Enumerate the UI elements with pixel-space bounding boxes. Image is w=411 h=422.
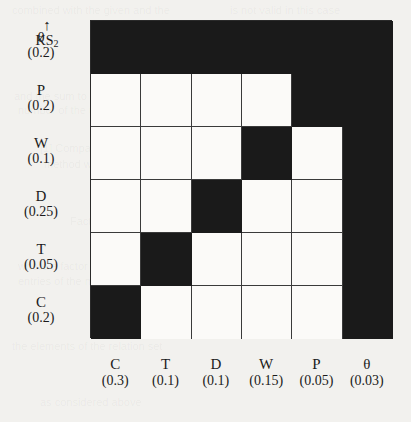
- figure-page: combined with the given and theis not va…: [0, 0, 411, 422]
- row-label-θ: θ(0.2): [0, 29, 82, 61]
- matrix-cell-θ-θ: [343, 21, 393, 74]
- row-label-symbol: T: [0, 241, 82, 258]
- matrix-cell-T-C: [91, 233, 141, 286]
- matrix-cell-T-T: [141, 233, 191, 286]
- matrix-cell-P-D: [192, 74, 242, 127]
- matrix-cell-D-P: [292, 180, 342, 233]
- row-label-symbol: W: [0, 135, 82, 152]
- matrix-cell-W-P: [292, 127, 342, 180]
- matrix-cell-W-T: [141, 127, 191, 180]
- ghost-text: is not valid in this case: [230, 4, 340, 16]
- matrix-cell-θ-C: [91, 21, 141, 74]
- matrix-cell-C-D: [192, 286, 242, 339]
- row-label-value: (0.2): [0, 45, 82, 61]
- matrix-cell-θ-T: [141, 21, 191, 74]
- row-label-C: C(0.2): [0, 294, 82, 326]
- matrix-cell-D-C: [91, 180, 141, 233]
- matrix-cell-D-D: [192, 180, 242, 233]
- matrix-cell-P-T: [141, 74, 191, 127]
- row-label-P: P(0.2): [0, 82, 82, 114]
- matrix-cell-P-C: [91, 74, 141, 127]
- row-label-W: W(0.1): [0, 135, 82, 167]
- row-label-T: T(0.05): [0, 241, 82, 273]
- row-label-D: D(0.25): [0, 188, 82, 220]
- matrix-cell-P-W: [242, 74, 292, 127]
- matrix-cell-W-W: [242, 127, 292, 180]
- matrix-cell-T-θ: [343, 233, 393, 286]
- row-label-value: (0.2): [0, 310, 82, 326]
- ghost-text: combined with the given and the: [12, 4, 170, 16]
- matrix-cell-T-P: [292, 233, 342, 286]
- matrix-cell-P-P: [292, 74, 342, 127]
- matrix-cell-C-T: [141, 286, 191, 339]
- matrix-cell-θ-W: [242, 21, 292, 74]
- col-label-θ: θ(0.03): [337, 356, 397, 388]
- row-label-symbol: θ: [0, 29, 82, 46]
- matrix-cell-W-C: [91, 127, 141, 180]
- matrix-cell-P-θ: [343, 74, 393, 127]
- column-label-row: C(0.3)T(0.1)D(0.1)W(0.15)P(0.05)θ(0.03): [90, 356, 392, 406]
- col-label-symbol: θ: [337, 356, 397, 373]
- ghost-text: the elements of the relation set: [12, 340, 162, 352]
- matrix-cell-C-θ: [343, 286, 393, 339]
- matrix-cell-T-D: [192, 233, 242, 286]
- matrix-cell-θ-P: [292, 21, 342, 74]
- matrix-cell-C-W: [242, 286, 292, 339]
- row-label-value: (0.25): [0, 204, 82, 220]
- row-label-value: (0.1): [0, 151, 82, 167]
- matrix-cell-T-W: [242, 233, 292, 286]
- row-label-symbol: C: [0, 294, 82, 311]
- row-label-symbol: D: [0, 188, 82, 205]
- row-label-value: (0.05): [0, 257, 82, 273]
- matrix-cell-D-W: [242, 180, 292, 233]
- row-label-symbol: P: [0, 82, 82, 99]
- matrix-cell-D-T: [141, 180, 191, 233]
- matrix-cell-W-D: [192, 127, 242, 180]
- col-label-value: (0.03): [337, 373, 397, 389]
- matrix-cell-D-θ: [343, 180, 393, 233]
- row-label-value: (0.2): [0, 98, 82, 114]
- matrix-cell-θ-D: [192, 21, 242, 74]
- row-label-column: θ(0.2)P(0.2)W(0.1)D(0.25)T(0.05)C(0.2): [0, 20, 86, 338]
- matrix-cell-C-C: [91, 286, 141, 339]
- incidence-matrix: [90, 20, 392, 338]
- matrix-cell-W-θ: [343, 127, 393, 180]
- matrix-cell-C-P: [292, 286, 342, 339]
